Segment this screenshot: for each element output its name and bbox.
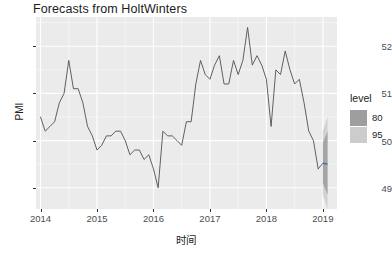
plot-area bbox=[36, 17, 337, 209]
legend-title: level bbox=[350, 92, 383, 104]
legend: level 80 95 bbox=[350, 92, 383, 143]
x-tick-label-2016: 2016 bbox=[143, 213, 164, 224]
legend-item-95[interactable]: 95 bbox=[350, 126, 383, 143]
x-tick-label-2014: 2014 bbox=[30, 213, 51, 224]
x-axis-title: 时间 bbox=[36, 232, 336, 247]
y-tick-label-49: 49 bbox=[364, 182, 392, 193]
y-tick-mark bbox=[33, 141, 36, 142]
x-tick-label-2018: 2018 bbox=[256, 213, 277, 224]
x-tick-label-2017: 2017 bbox=[199, 213, 220, 224]
legend-label-95: 95 bbox=[372, 129, 383, 140]
x-tick-mark bbox=[97, 209, 98, 212]
forecast-point-line bbox=[323, 163, 328, 164]
plot-panel bbox=[36, 17, 337, 209]
legend-swatch-80 bbox=[350, 110, 367, 126]
chart-title: Forecasts from HoltWinters bbox=[33, 2, 187, 16]
major-gridlines bbox=[36, 17, 337, 209]
y-tick-mark bbox=[33, 46, 36, 47]
y-tick-mark bbox=[33, 93, 36, 94]
x-tick-label-2019: 2019 bbox=[312, 213, 333, 224]
legend-item-80[interactable]: 80 bbox=[350, 109, 383, 126]
x-tick-mark bbox=[41, 209, 42, 212]
x-tick-label-2015: 2015 bbox=[86, 213, 107, 224]
x-tick-mark bbox=[323, 209, 324, 212]
y-axis-title: PMI bbox=[14, 82, 25, 142]
forecast-chart-figure: Forecasts from HoltWinters PMI 49505152 … bbox=[0, 0, 392, 253]
x-tick-mark bbox=[210, 209, 211, 212]
legend-label-80: 80 bbox=[372, 112, 383, 123]
y-tick-label-52: 52 bbox=[364, 41, 392, 52]
legend-swatch-95 bbox=[350, 127, 367, 143]
x-tick-mark bbox=[153, 209, 154, 212]
y-tick-mark bbox=[33, 188, 36, 189]
x-tick-mark bbox=[266, 209, 267, 212]
